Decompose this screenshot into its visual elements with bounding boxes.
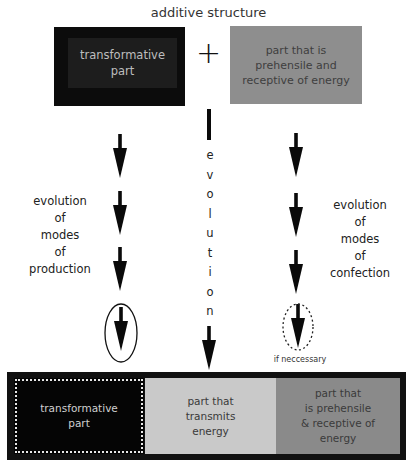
left-arrow-4-icon [114,307,128,351]
evolution-letter: u [200,224,220,244]
left-arrow-2-icon [113,191,127,235]
evolution-letter: v [200,166,220,186]
cell-line: energy [301,431,375,446]
right-label-line: evolution [318,197,402,214]
evolution-letter: o [200,185,220,205]
evolution-letter: n [200,302,220,322]
right-label-line: modes [318,231,402,248]
right-arrow-3-icon [289,250,303,294]
bottom-transmits-cell: part that transmits energy [145,378,276,454]
evolution-vertical-label: e v o l u t i o n [200,146,220,322]
right-arrow-2-icon [289,193,303,237]
left-label-line: evolution [20,193,100,210]
left-column-label: evolution of modes of production [20,193,100,278]
evolution-letter: t [200,244,220,264]
cell-line: & receptive of [301,416,375,431]
cell-line: transformative [40,401,118,416]
evolution-letter: i [200,263,220,283]
right-arrow-1-icon [289,133,303,177]
evolution-letter: l [200,205,220,225]
center-arrow-icon [202,326,216,370]
cell-line: transmits [186,409,236,424]
left-label-line: of [20,244,100,261]
right-column-label: evolution of modes of confection [318,197,402,282]
cell-line: energy [186,424,236,439]
cell-line: part that [186,394,236,409]
right-label-line: of [318,248,402,265]
right-label-line: confection [318,265,402,282]
cell-line: part [40,416,118,431]
left-arrow-3-icon [113,247,127,291]
left-label-line: production [20,261,100,278]
cell-line: is prehensile [301,401,375,416]
left-label-line: of [20,210,100,227]
if-necessary-note: if neccessary [265,355,335,364]
bottom-transformative-cell: transformative part [14,378,144,454]
left-arrow-1-icon [113,134,127,178]
right-arrow-4-icon [291,304,305,348]
evolution-letter: o [200,283,220,303]
combined-structure-box: transformative part part that transmits … [7,372,406,460]
center-bar-icon [207,109,211,140]
right-label-line: of [318,214,402,231]
bottom-prehensile-cell: part that is prehensile & receptive of e… [276,378,400,454]
cell-line: part that [301,386,375,401]
left-label-line: modes [20,227,100,244]
evolution-letter: e [200,146,220,166]
